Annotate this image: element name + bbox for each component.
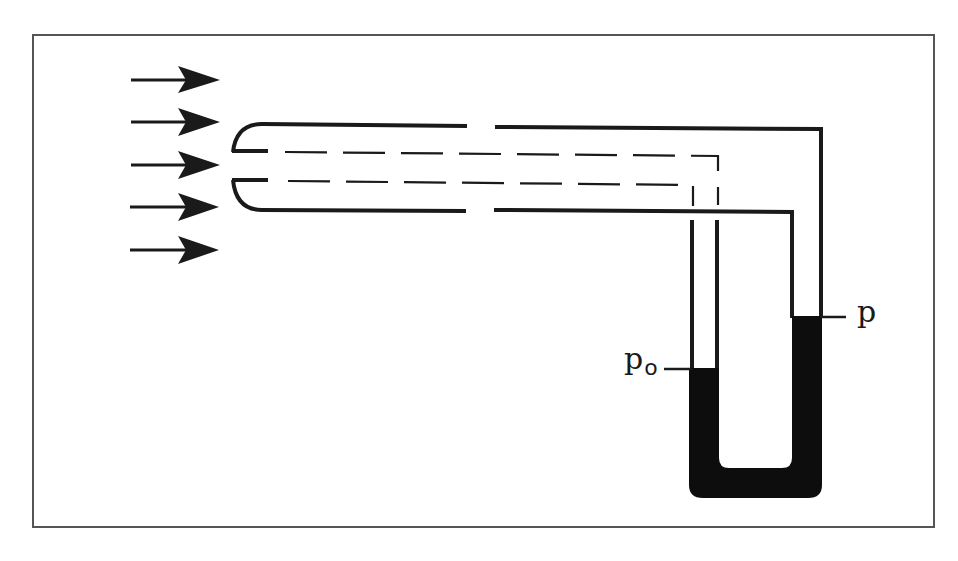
pitot-tube-diagram: p po (0, 0, 958, 561)
manometer-fluid (689, 316, 822, 498)
arrow-icon (131, 66, 220, 93)
stagnation-pressure-symbol: p (624, 341, 643, 376)
manometer-left-tubes (692, 220, 717, 370)
arrow-icon (130, 236, 219, 264)
stagnation-pressure-label: po (624, 341, 658, 380)
arrow-icon (131, 108, 220, 136)
stagnation-pressure-subscript: o (644, 355, 657, 380)
static-pressure-label: p (857, 294, 876, 329)
inner-tube-dashed (285, 152, 718, 206)
arrow-icon (131, 151, 220, 179)
arrow-icon (130, 193, 219, 221)
flow-arrows (130, 66, 220, 264)
